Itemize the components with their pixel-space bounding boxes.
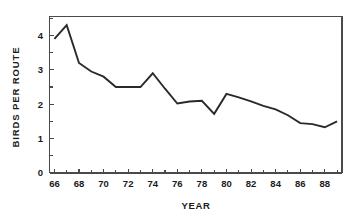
x-tick-label: 86 bbox=[295, 178, 306, 189]
x-tick-label: 70 bbox=[98, 178, 109, 189]
chart-container: 666870727476788082848688 01234 YEAR BIRD… bbox=[0, 0, 362, 216]
x-axis-ticks bbox=[54, 169, 337, 174]
x-tick-label: 80 bbox=[221, 178, 232, 189]
y-tick-label: 4 bbox=[38, 30, 44, 41]
plot-border bbox=[50, 17, 343, 174]
y-tick-label: 1 bbox=[38, 133, 44, 144]
x-tick-label: 72 bbox=[123, 178, 134, 189]
y-axis-title: BIRDS PER ROUTE bbox=[10, 46, 21, 147]
y-axis-tick-labels: 01234 bbox=[38, 30, 44, 179]
x-tick-label: 82 bbox=[246, 178, 257, 189]
y-axis-ticks bbox=[50, 18, 55, 173]
y-tick-label: 2 bbox=[38, 99, 43, 110]
x-tick-label: 74 bbox=[147, 178, 158, 189]
data-series-line bbox=[54, 25, 337, 127]
x-axis-tick-labels: 666870727476788082848688 bbox=[49, 178, 330, 189]
x-tick-label: 84 bbox=[270, 178, 281, 189]
x-tick-label: 88 bbox=[320, 178, 331, 189]
x-tick-label: 78 bbox=[197, 178, 208, 189]
x-tick-label: 66 bbox=[49, 178, 60, 189]
x-tick-label: 76 bbox=[172, 178, 183, 189]
plot-frame bbox=[50, 17, 343, 174]
y-tick-label: 0 bbox=[38, 167, 43, 178]
y-tick-label: 3 bbox=[38, 64, 43, 75]
data-series-layer bbox=[54, 25, 337, 127]
x-axis-title: YEAR bbox=[182, 200, 211, 211]
line-chart: 666870727476788082848688 01234 YEAR BIRD… bbox=[0, 0, 362, 216]
x-tick-label: 68 bbox=[74, 178, 85, 189]
